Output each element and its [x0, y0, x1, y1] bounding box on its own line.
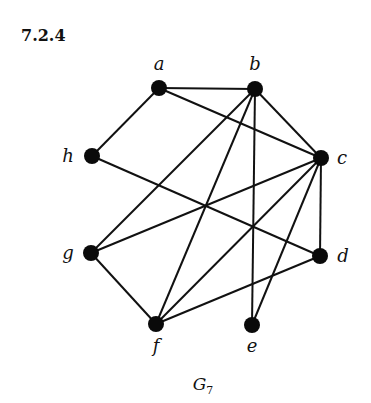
edge-c-f [156, 158, 321, 324]
vertex-e [244, 317, 260, 333]
vertex-d [312, 248, 328, 264]
vertex-g [83, 245, 99, 261]
vertex-label-b: b [249, 53, 261, 74]
graph-subscript: 7 [206, 384, 213, 397]
vertex-b [247, 81, 263, 97]
graph-diagram: abcdefgh G7 [0, 0, 371, 403]
edge-c-d [320, 158, 321, 256]
graph-caption: G7 [193, 374, 214, 397]
vertex-label-c: c [337, 147, 347, 168]
vertex-label-e: e [247, 335, 258, 356]
edge-a-h [92, 88, 159, 156]
vertex-label-h: h [62, 145, 74, 166]
vertex-h [84, 148, 100, 164]
vertex-c [313, 150, 329, 166]
graph-name: G [193, 374, 207, 394]
edge-c-g [91, 158, 321, 253]
edge-g-f [91, 253, 156, 324]
vertex-f [148, 316, 164, 332]
vertex-label-a: a [154, 53, 165, 74]
graph-edges [91, 88, 321, 325]
vertex-label-f: f [151, 335, 163, 356]
edge-b-e [252, 89, 255, 325]
vertex-label-d: d [337, 245, 349, 266]
edge-b-g [91, 89, 255, 253]
edge-a-b [159, 88, 255, 89]
vertex-a [151, 80, 167, 96]
edge-b-c [255, 89, 321, 158]
vertex-label-g: g [62, 242, 74, 263]
